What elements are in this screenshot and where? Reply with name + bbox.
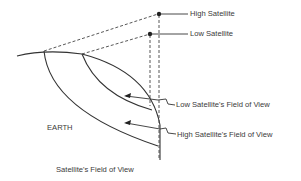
satellite-field-of-view-diagram <box>0 0 301 181</box>
low-fov-arrowhead-icon <box>124 93 131 98</box>
high-fov-arrowhead-icon <box>124 120 131 125</box>
diagram-caption: Satellite's Field of View <box>56 166 134 174</box>
low-satellite-dot <box>148 32 152 36</box>
low-fov-label: Low Satellite's Field of View <box>176 101 270 109</box>
low-satellite-tangent-line <box>82 34 150 54</box>
high-fov-arrow <box>126 123 176 134</box>
low-fov-arc <box>82 54 152 110</box>
high-satellite-tangent-line <box>44 14 158 51</box>
high-fov-label: High Satellite's Field of View <box>177 131 272 139</box>
high-satellite-label: High Satellite <box>190 10 235 18</box>
low-satellite-label: Low Satellite <box>190 30 233 38</box>
high-satellite-dot <box>157 12 161 16</box>
earth-label: EARTH <box>47 124 73 132</box>
